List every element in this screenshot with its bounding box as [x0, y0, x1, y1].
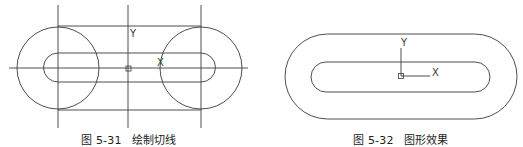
fig2-y-axis-label: Y — [400, 37, 408, 48]
fig2-x-axis-label: X — [432, 67, 439, 78]
caption-number: 图 5-32 — [353, 134, 394, 147]
inner-slot — [311, 62, 490, 92]
fig1-x-axis-label: X — [157, 57, 164, 68]
inner-slot — [44, 53, 216, 82]
caption-title: 绘制切线 — [132, 134, 177, 147]
figure-5-31-drawing — [9, 5, 248, 128]
caption-number: 图 5-31 — [81, 134, 122, 147]
caption-title: 图形效果 — [404, 134, 449, 147]
figure-5-31-caption: 图 5-31绘制切线 — [81, 131, 176, 147]
fig1-y-axis-label: Y — [129, 28, 137, 39]
figure-5-32-caption: 图 5-32图形效果 — [353, 131, 448, 147]
ucs-origin-marker — [126, 66, 131, 71]
drawing-canvas: Y X Y X — [0, 0, 523, 147]
